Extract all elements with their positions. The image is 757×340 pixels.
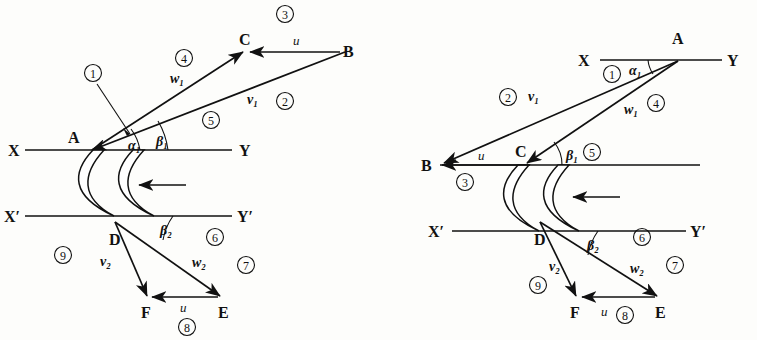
velocity-label-u-lower-right: u — [601, 304, 608, 319]
angle-label-alpha1-right: α₁ — [629, 63, 642, 78]
svg-text:1: 1 — [90, 67, 96, 81]
svg-text:5: 5 — [589, 146, 595, 160]
point-label-E-right: E — [655, 304, 666, 321]
svg-text:2: 2 — [282, 95, 288, 109]
velocity-label-v2-right: v₂ — [549, 259, 560, 274]
axis-label-Yp-right: Y′ — [690, 223, 706, 240]
velocity-label-w2-left: w₂ — [192, 255, 206, 270]
svg-text:6: 6 — [639, 231, 645, 245]
callout-6-right: 6 — [634, 229, 651, 246]
callout-1-left: 1 — [85, 65, 102, 82]
angle-label-beta1-left: β₁ — [155, 134, 168, 149]
svg-text:9: 9 — [535, 279, 541, 293]
angle-label-beta2-left: β₂ — [159, 223, 172, 238]
point-label-F-left: F — [141, 304, 151, 321]
point-label-D-right: D — [534, 231, 546, 248]
callout-5-left: 5 — [203, 112, 220, 129]
svg-text:6: 6 — [212, 231, 218, 245]
callout-3-left: 3 — [277, 6, 294, 23]
callout-1-right: 1 — [604, 66, 621, 83]
callout-8-right: 8 — [617, 307, 634, 324]
callout-4-left: 4 — [176, 50, 193, 67]
angle-arc-alpha1-right — [648, 60, 653, 74]
point-label-B-left: B — [343, 43, 354, 60]
callout-7-left: 7 — [238, 257, 255, 274]
vector-v1-left — [92, 52, 345, 150]
point-label-F-right: F — [570, 304, 580, 321]
callout-1-leader-left — [97, 84, 130, 134]
velocity-label-v1-left: v₁ — [247, 92, 258, 107]
figure-canvas: A B C D E F X Y X′ Y′ w₁ v₁ u v₂ w₂ u α₁… — [0, 0, 757, 340]
axis-label-Yp-left: Y′ — [237, 208, 253, 225]
right-velocity-diagram: A B C D E F X Y X′ Y′ v₁ w₁ u v₂ w₂ u α₁… — [421, 30, 739, 324]
callout-6-left: 6 — [207, 229, 224, 246]
blade-profile-left-2 — [119, 150, 154, 216]
velocity-label-u-upper-right: u — [478, 148, 485, 163]
point-label-C-left: C — [239, 31, 251, 48]
callout-8-left: 8 — [179, 319, 196, 336]
point-label-B-right: B — [421, 157, 432, 174]
velocity-label-u-upper-left: u — [293, 33, 300, 48]
blade-profile-right-1 — [504, 165, 539, 231]
point-label-A-left: A — [68, 129, 80, 146]
point-label-C-right: C — [515, 143, 527, 160]
angle-label-alpha1-left: α₁ — [128, 138, 141, 153]
angle-label-beta2-right: β₂ — [586, 238, 599, 253]
callout-2-left: 2 — [277, 93, 294, 110]
blade-profile-left-1 — [79, 150, 114, 216]
axis-label-X-right: X — [578, 52, 590, 69]
velocity-label-w1-right: w₁ — [624, 102, 638, 117]
callout-3-right: 3 — [457, 174, 474, 191]
velocity-label-u-lower-left: u — [180, 300, 187, 315]
svg-text:3: 3 — [462, 176, 468, 190]
svg-text:8: 8 — [184, 321, 190, 335]
callout-4-right: 4 — [648, 95, 665, 112]
velocity-label-v2-left: v₂ — [100, 254, 111, 269]
svg-text:7: 7 — [672, 259, 678, 273]
axis-label-X-left: X — [8, 142, 20, 159]
velocity-label-w1-left: w₁ — [170, 71, 184, 86]
svg-text:5: 5 — [208, 114, 214, 128]
point-label-A-right: A — [672, 30, 684, 47]
svg-text:3: 3 — [282, 8, 288, 22]
callout-5-right: 5 — [584, 144, 601, 161]
svg-text:2: 2 — [505, 91, 511, 105]
svg-text:1: 1 — [609, 68, 615, 82]
callout-9-left: 9 — [55, 247, 72, 264]
callout-2-right: 2 — [500, 89, 517, 106]
axis-label-Y-right: Y — [727, 52, 739, 69]
left-velocity-diagram: A B C D E F X Y X′ Y′ w₁ v₁ u v₂ w₂ u α₁… — [4, 6, 354, 336]
svg-text:8: 8 — [622, 309, 628, 323]
axis-label-Y-left: Y — [239, 142, 251, 159]
axis-label-Xp-right: X′ — [428, 223, 444, 240]
svg-text:4: 4 — [653, 97, 659, 111]
svg-text:9: 9 — [60, 249, 66, 263]
axis-label-Xp-left: X′ — [4, 208, 20, 225]
velocity-diagram-svg: A B C D E F X Y X′ Y′ w₁ v₁ u v₂ w₂ u α₁… — [0, 0, 757, 340]
svg-text:7: 7 — [243, 259, 249, 273]
angle-label-beta1-right: β₁ — [565, 148, 578, 163]
callout-9-right: 9 — [530, 277, 547, 294]
point-label-D-left: D — [109, 231, 121, 248]
angle-arc-beta1-right — [554, 142, 562, 165]
velocity-label-v1-right: v₁ — [528, 89, 539, 104]
svg-text:4: 4 — [181, 52, 187, 66]
callout-7-right: 7 — [667, 257, 684, 274]
blade-profile-right-2 — [544, 165, 579, 231]
velocity-label-w2-right: w₂ — [630, 261, 644, 276]
point-label-E-left: E — [218, 304, 229, 321]
